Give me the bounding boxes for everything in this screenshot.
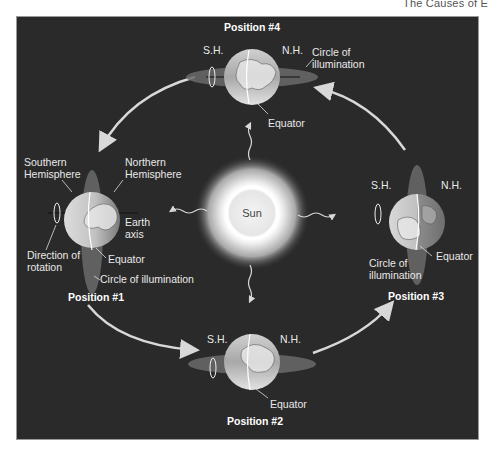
- earth-orbit-diagram: Sun Position #4 S.H. N.H. Circle of illu…: [0, 0, 488, 451]
- earth-position-1: Southern Hemisphere Northern Hemisphere …: [24, 156, 194, 303]
- circle-label: Circle of: [369, 257, 408, 269]
- equator-label: Equator: [268, 117, 305, 129]
- position-2-title: Position #2: [227, 415, 283, 427]
- circle-label-2: illumination: [312, 58, 365, 70]
- sh-label: S.H.: [371, 179, 391, 191]
- southern-label: Southern: [24, 156, 67, 168]
- position-3-title: Position #3: [388, 290, 444, 302]
- southern-label-2: Hemisphere: [24, 168, 81, 180]
- circle-label: Circle of: [312, 46, 351, 58]
- rotation-icon: [375, 204, 381, 224]
- orbit-arrow-2-to-3: [313, 304, 391, 353]
- orbit-arrow-4-to-1: [101, 77, 195, 148]
- earth-axis-label-2: axis: [125, 228, 144, 240]
- equator-label: Equator: [108, 253, 145, 265]
- northern-label-2: Hemisphere: [125, 168, 182, 180]
- ray-up-icon: [249, 124, 252, 160]
- position-4-title: Position #4: [224, 21, 280, 33]
- orbit-arrow-3-to-4: [318, 88, 405, 150]
- equator-label: Equator: [436, 250, 473, 262]
- orbit-arrow-1-to-2: [88, 305, 195, 350]
- nh-label: N.H.: [441, 179, 462, 191]
- earth-position-3: S.H. N.H. Equator Circle of illumination…: [369, 165, 473, 302]
- position-1-title: Position #1: [68, 291, 124, 303]
- earth-position-2: S.H. N.H. Equator Position #2: [188, 333, 316, 427]
- rotation-label-2: rotation: [27, 261, 62, 273]
- circle-label: Circle of illumination: [100, 273, 194, 285]
- earth-axis-label: Earth: [125, 216, 150, 228]
- nh-label: N.H.: [280, 333, 301, 345]
- rotation-label: Direction of: [27, 249, 80, 261]
- sun-label: Sun: [242, 207, 262, 219]
- earth-position-4: Position #4 S.H. N.H. Circle of illumina…: [186, 21, 365, 129]
- nh-label: N.H.: [282, 44, 303, 56]
- circle-label-2: illumination: [369, 269, 422, 281]
- northern-label: Northern: [125, 156, 166, 168]
- equator-label: Equator: [270, 398, 307, 410]
- sh-label: S.H.: [203, 44, 223, 56]
- sun: Sun: [194, 155, 310, 271]
- sh-label: S.H.: [207, 333, 227, 345]
